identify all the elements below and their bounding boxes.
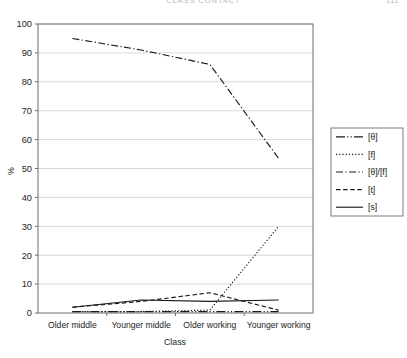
legend-label: [f]: [368, 150, 375, 160]
svg-text:40: 40: [22, 193, 32, 203]
chart-canvas: 0102030405060708090100 Older middleYoung…: [0, 0, 407, 358]
svg-text:30: 30: [22, 222, 32, 232]
y-axis-ticks-group: 0102030405060708090100: [16, 19, 38, 318]
svg-text:80: 80: [22, 77, 32, 87]
svg-text:60: 60: [22, 135, 32, 145]
svg-text:70: 70: [22, 106, 32, 116]
svg-text:0: 0: [27, 308, 32, 318]
legend-label: [t]: [368, 185, 375, 195]
y-axis-title: %: [6, 167, 16, 175]
svg-text:50: 50: [22, 164, 32, 174]
svg-text:100: 100: [16, 19, 32, 29]
svg-text:Older middle: Older middle: [48, 320, 97, 330]
legend: [θ][f][θ]/[f][t][s]: [331, 128, 403, 216]
legend-label: [s]: [368, 202, 377, 212]
legend-label: [θ]/[f]: [368, 167, 387, 177]
svg-text:20: 20: [22, 251, 32, 261]
svg-text:Younger middle: Younger middle: [111, 320, 171, 330]
svg-text:Younger working: Younger working: [247, 320, 311, 330]
legend-label: [θ]: [368, 132, 378, 142]
x-axis-category-labels: Older middleYounger middleOlder workingY…: [48, 320, 311, 330]
svg-text:Older working: Older working: [183, 320, 236, 330]
x-axis-title: Class: [164, 337, 187, 347]
svg-text:10: 10: [22, 279, 32, 289]
line-chart-figure: 0102030405060708090100 Older middleYoung…: [0, 0, 407, 358]
svg-text:90: 90: [22, 48, 32, 58]
